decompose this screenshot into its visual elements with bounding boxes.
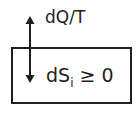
entropy-production-label: dSi ≥ 0 (46, 66, 114, 93)
double-arrow-icon (22, 16, 38, 84)
inequality: ≥ 0 (73, 64, 113, 86)
entropy-symbol: dS (46, 64, 70, 86)
heat-flow-label: dQ/T (45, 9, 85, 26)
